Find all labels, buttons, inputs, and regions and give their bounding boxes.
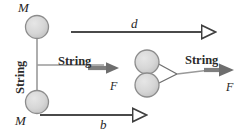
mass-bottom-label: M	[15, 114, 26, 127]
dimension-bottom-label: b	[100, 118, 107, 131]
mass-right-top-icon	[135, 50, 159, 74]
diagram-canvas	[0, 0, 239, 136]
force-arrow-left-icon	[88, 62, 119, 74]
mass-top-icon	[26, 16, 49, 39]
mass-top-label: M	[18, 1, 29, 14]
string-vertical-label: String	[14, 61, 27, 94]
mass-right-bottom-icon	[135, 73, 159, 97]
physics-diagram-figure: M M d b F F String String String	[0, 0, 239, 136]
force-left-label: F	[110, 80, 117, 92]
dimension-top-label: d	[131, 17, 138, 30]
mass-bottom-icon	[26, 91, 49, 114]
force-right-label: F	[226, 81, 233, 93]
string-horizontal-label: String	[58, 55, 91, 68]
string-right-label: String	[185, 54, 218, 67]
